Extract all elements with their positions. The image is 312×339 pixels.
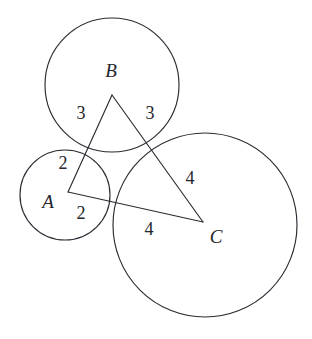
side-ab (68, 95, 112, 192)
circle-a (20, 150, 110, 240)
figure-canvas (0, 0, 312, 339)
geometry-figure: A B C 3 3 2 2 4 4 (0, 0, 312, 339)
circle-c (113, 133, 297, 317)
triangle-group (68, 95, 203, 222)
circles-group (20, 18, 297, 317)
side-ca (68, 192, 203, 222)
circle-b (45, 18, 179, 152)
side-bc (112, 95, 203, 222)
